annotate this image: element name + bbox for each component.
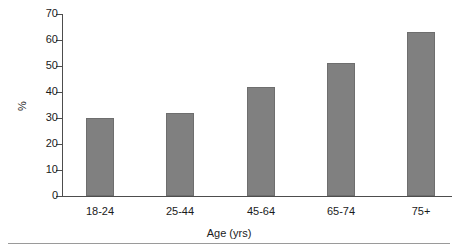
y-tick-label: 30 [32, 110, 58, 125]
y-tick-40: 40 [62, 92, 63, 93]
y-axis-spine [62, 14, 63, 196]
x-tick-label: 25-44 [145, 204, 215, 218]
y-tick-label: 0 [32, 188, 58, 203]
y-tick-0: 0 [62, 196, 63, 197]
y-tick-30: 30 [62, 118, 63, 119]
y-tick-50: 50 [62, 66, 63, 67]
y-tick-label: 20 [32, 136, 58, 151]
y-tick-label: 10 [32, 162, 58, 177]
x-axis-spine [62, 196, 452, 197]
x-axis-title: Age (yrs) [0, 226, 458, 240]
y-tick-label: 60 [32, 32, 58, 47]
x-tick-label: 45-64 [226, 204, 296, 218]
plot-area: 0 10 20 30 40 50 60 70 [62, 14, 452, 196]
bar [166, 113, 194, 196]
x-tick-label: 18-24 [65, 204, 135, 218]
y-tick-20: 20 [62, 144, 63, 145]
bar-chart-figure: % 0 10 20 30 40 50 60 [0, 0, 458, 249]
y-tick-label: 70 [32, 6, 58, 21]
y-tick-60: 60 [62, 40, 63, 41]
bar [86, 118, 114, 196]
x-tick-label: 75+ [386, 204, 456, 218]
y-tick-label: 50 [32, 58, 58, 73]
y-axis-label: % [12, 96, 32, 116]
y-tick-70: 70 [62, 14, 63, 15]
bar [407, 32, 435, 196]
y-tick-label: 40 [32, 84, 58, 99]
y-tick-10: 10 [62, 170, 63, 171]
x-tick-label: 65-74 [306, 204, 376, 218]
bottom-divider [8, 243, 450, 244]
bar [327, 63, 355, 196]
bar [247, 87, 275, 196]
